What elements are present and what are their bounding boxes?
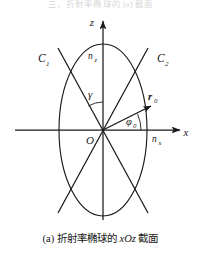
- svg-text:1: 1: [46, 60, 50, 68]
- caption-text-trailing: 截面: [138, 233, 158, 244]
- svg-text:n: n: [88, 51, 93, 61]
- caption-index: (a): [43, 233, 55, 244]
- phi0-angle-label: φ 0: [126, 116, 137, 129]
- svg-text:C: C: [38, 52, 46, 64]
- svg-text:0: 0: [154, 97, 158, 104]
- caption-text-leading: 折射率椭球的: [57, 233, 117, 244]
- svg-text:r: r: [148, 91, 153, 102]
- svg-text:φ: φ: [126, 116, 132, 127]
- svg-text:z: z: [94, 56, 98, 63]
- index-ellipsoid-diagram: z x O n z n x C 1 C 2 r 0 γ: [0, 8, 201, 226]
- svg-text:x: x: [158, 139, 162, 146]
- svg-text:2: 2: [165, 60, 169, 68]
- gamma-angle-arc: [89, 102, 104, 106]
- svg-text:0: 0: [133, 122, 137, 129]
- optic-axis-c2-label: C 2: [157, 52, 169, 68]
- nz-intercept-label: n z: [88, 51, 98, 63]
- nx-intercept-label: n x: [152, 134, 162, 146]
- caption-plane-label: xOz: [119, 233, 135, 244]
- svg-text:n: n: [152, 134, 157, 144]
- optic-axis-c1-label: C 1: [38, 52, 50, 68]
- svg-text:C: C: [157, 52, 165, 64]
- r0-vector-label: r 0: [148, 91, 158, 104]
- gamma-angle-label: γ: [88, 88, 93, 100]
- z-axis-label: z: [89, 16, 95, 28]
- origin-label: O: [86, 134, 94, 146]
- figure-container: 三、折射率椭球的 (a) 截面 z x: [0, 0, 201, 260]
- figure-caption: (a) 折射率椭球的 xOz 截面: [0, 232, 201, 246]
- phi0-angle-arc: [138, 114, 142, 130]
- x-axis-label: x: [183, 126, 189, 138]
